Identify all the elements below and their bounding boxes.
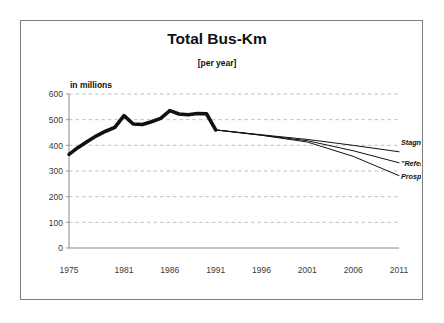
chart-title: Total Bus-Km — [167, 30, 267, 47]
annotation-label: Stagnation — [401, 138, 421, 147]
series-line-historical — [69, 111, 216, 155]
x-tick-label: 1975 — [60, 265, 79, 275]
gridlines — [69, 94, 399, 222]
y-tick-label: 300 — [49, 166, 63, 176]
y-axis-tick-labels: 0100200300400500600 — [49, 89, 69, 253]
x-tick-label: 1996 — [252, 265, 271, 275]
annotation-label: "Reference" — [401, 159, 421, 168]
y-tick-label: 200 — [49, 192, 63, 202]
annotation-label: Prosperity — [401, 172, 421, 181]
y-tick-label: 500 — [49, 115, 63, 125]
x-axis-tick-labels: 19751981198619911996200120062011 — [60, 265, 409, 275]
chart-subtitle: [per year] — [198, 58, 237, 68]
bus-km-line-chart: Total Bus-Km [per year] in millions 0100… — [21, 21, 421, 298]
x-tick-label: 2011 — [390, 265, 409, 275]
y-axis-unit-label: in millions — [70, 80, 112, 90]
y-tick-label: 600 — [49, 89, 63, 99]
y-tick-label: 100 — [49, 218, 63, 228]
x-tick-label: 1991 — [206, 265, 225, 275]
y-tick-label: 400 — [49, 141, 63, 151]
x-tick-label: 1981 — [115, 265, 134, 275]
series-annotations: Stagnation"Reference"Prosperity — [401, 138, 421, 181]
y-tick-label: 0 — [58, 243, 63, 253]
series-line-prosperity — [216, 130, 399, 176]
x-tick-label: 2006 — [344, 265, 363, 275]
data-series-group — [69, 111, 399, 176]
series-line-reference — [216, 130, 399, 163]
chart-frame: Total Bus-Km [per year] in millions 0100… — [20, 20, 423, 300]
x-tick-label: 2001 — [298, 265, 317, 275]
x-tick-label: 1986 — [160, 265, 179, 275]
